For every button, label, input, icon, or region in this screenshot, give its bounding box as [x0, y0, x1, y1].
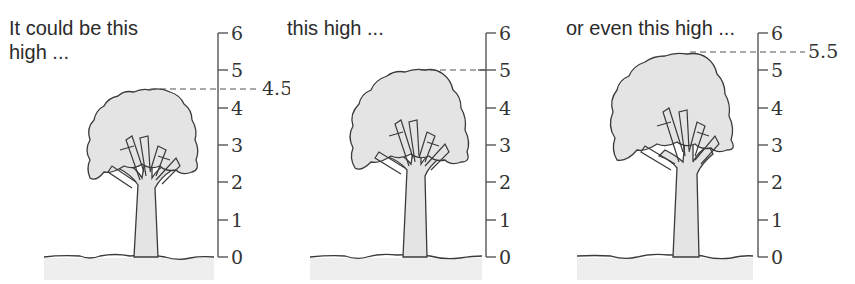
height-marker-label: 5.5 [808, 40, 838, 62]
tree-crown [610, 53, 733, 160]
tick-6: 6 [231, 22, 243, 44]
ground-strip [577, 258, 753, 280]
tick-0: 0 [499, 246, 511, 268]
tick-4: 4 [771, 97, 783, 119]
tick-2: 2 [231, 171, 243, 193]
tick-1: 1 [499, 209, 511, 231]
tick-1: 1 [771, 209, 783, 231]
panel-tree-2: this high ... 6 5 4 3 [275, 0, 565, 284]
tree-diagram-1: 4.5 6 5 4 3 2 1 0 [0, 0, 290, 284]
tick-5: 5 [231, 59, 243, 81]
tick-4: 4 [231, 97, 243, 119]
height-scale [478, 33, 496, 257]
tree-diagram-3: 5.5 6 5 4 3 2 1 0 [555, 0, 855, 284]
tree-trunk [659, 140, 713, 257]
tree-crown [350, 69, 469, 169]
tick-0: 0 [231, 246, 243, 268]
tick-3: 3 [771, 134, 783, 156]
tick-5: 5 [499, 59, 511, 81]
tree-trunk [118, 160, 172, 257]
panel-tree-1: It could be this high ... 4.5 [0, 0, 290, 284]
panel-tree-3: or even this high ... 5.5 6 5 [555, 0, 855, 284]
tick-6: 6 [499, 22, 511, 44]
tick-4: 4 [499, 97, 511, 119]
height-scale [218, 33, 228, 257]
tick-2: 2 [771, 171, 783, 193]
tick-6: 6 [771, 22, 783, 44]
tick-3: 3 [499, 134, 511, 156]
height-scale [758, 33, 768, 257]
tick-2: 2 [499, 171, 511, 193]
tree-diagram-2: 6 5 4 3 2 1 0 [275, 0, 565, 284]
ground-strip [310, 258, 482, 280]
tick-5: 5 [771, 59, 783, 81]
ground-strip [44, 258, 214, 280]
tick-1: 1 [231, 209, 243, 231]
tick-3: 3 [231, 134, 243, 156]
tick-0: 0 [771, 246, 783, 268]
